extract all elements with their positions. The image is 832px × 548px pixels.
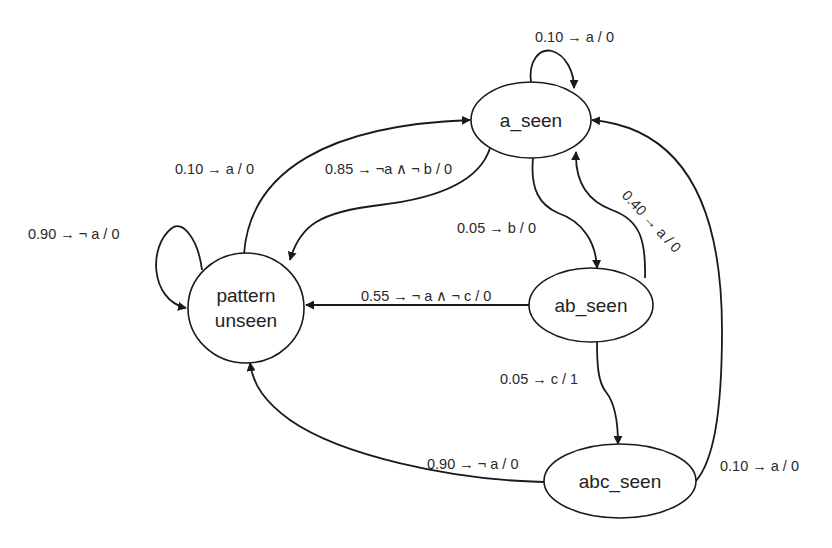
node-a-seen: a_seen xyxy=(471,82,591,158)
label-pattern-unseen-self-loop: 0.90 → ¬ a / 0 xyxy=(28,226,120,242)
label-a-seen-to-ab-seen: 0.05 → b / 0 xyxy=(457,220,536,236)
edge-ab-seen-to-abc-seen xyxy=(597,341,618,444)
edge-pattern-unseen-to-a-seen xyxy=(244,120,470,254)
node-pattern-unseen-label-line1: pattern xyxy=(216,285,275,306)
node-a-seen-label: a_seen xyxy=(500,110,562,132)
label-ab-seen-to-a-seen: 0.40 → a / 0 xyxy=(619,187,685,256)
label-a-seen-self-loop: 0.10 → a / 0 xyxy=(535,29,614,45)
label-abc-seen-to-a-seen: 0.10 → a / 0 xyxy=(720,458,799,474)
node-pattern-unseen-label-line2: unseen xyxy=(215,310,277,331)
node-ab-seen-label: ab_seen xyxy=(555,295,628,317)
label-a-seen-to-pattern-unseen: 0.85 → ¬a ∧ ¬ b / 0 xyxy=(325,161,452,177)
node-pattern-unseen: pattern unseen xyxy=(188,253,304,363)
node-ab-seen: ab_seen xyxy=(529,268,653,342)
state-machine-diagram: pattern unseen a_seen ab_seen abc_seen 0… xyxy=(0,0,832,548)
label-ab-seen-to-pattern-unseen: 0.55 → ¬ a ∧ ¬ c / 0 xyxy=(361,288,491,304)
node-abc-seen-label: abc_seen xyxy=(579,471,661,493)
label-abc-seen-to-pattern-unseen: 0.90 → ¬ a / 0 xyxy=(427,456,519,472)
label-pattern-unseen-to-a-seen: 0.10 → a / 0 xyxy=(175,161,254,177)
edge-a-seen-to-ab-seen xyxy=(532,158,597,268)
node-abc-seen: abc_seen xyxy=(544,444,696,518)
label-ab-seen-to-abc-seen: 0.05 → c / 1 xyxy=(500,371,578,387)
